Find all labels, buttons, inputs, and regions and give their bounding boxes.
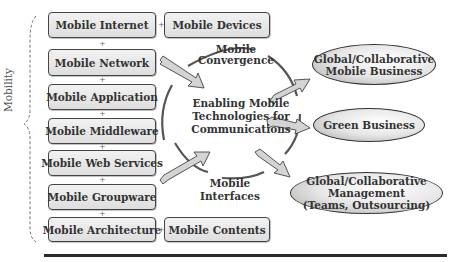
label-line: Mobile bbox=[200, 177, 260, 190]
box-mobile-network: Mobile Network bbox=[48, 49, 156, 76]
box-label: Mobile Devices bbox=[172, 19, 261, 31]
mobile-interfaces-label: Mobile Interfaces bbox=[200, 177, 260, 203]
enabling-technologies-label: Enabling Mobile Technologies for Communi… bbox=[186, 97, 296, 136]
mobility-bracket bbox=[24, 16, 36, 242]
label-line: Enabling Mobile bbox=[186, 97, 296, 110]
label-line: Interfaces bbox=[200, 190, 260, 203]
box-mobile-devices: Mobile Devices bbox=[164, 12, 270, 38]
box-mobile-web-services: Mobile Web Services bbox=[48, 150, 156, 176]
outcome-green-business: Green Business bbox=[313, 108, 425, 142]
ellipse-line: Global/Collaborative bbox=[314, 53, 434, 65]
box-label: Mobile Contents bbox=[168, 224, 265, 236]
box-label: Mobile Application bbox=[46, 91, 158, 103]
ellipse-line: Management bbox=[303, 187, 430, 199]
box-label: Mobile Architecture bbox=[43, 224, 162, 236]
plus-connector: + bbox=[158, 21, 165, 29]
plus-connector: + bbox=[99, 210, 106, 218]
label-line: Convergence bbox=[196, 54, 276, 67]
box-mobile-architecture: Mobile Architecture bbox=[48, 217, 156, 242]
ellipse-line: (Teams, Outsourcing) bbox=[303, 199, 430, 211]
box-mobile-internet: Mobile Internet bbox=[48, 12, 156, 38]
plus-connector: + bbox=[99, 176, 106, 184]
box-label: Mobile Middleware bbox=[45, 125, 158, 137]
box-label: Mobile Web Services bbox=[41, 157, 163, 169]
plus-connector: + bbox=[99, 143, 106, 151]
ellipse-line: Global/Collaborative bbox=[303, 175, 430, 187]
plus-connector: + bbox=[99, 110, 106, 118]
bottom-rule bbox=[44, 254, 447, 257]
plus-connector: + bbox=[158, 226, 165, 234]
outcome-global-management: Global/Collaborative Management (Teams, … bbox=[290, 172, 443, 214]
box-mobile-middleware: Mobile Middleware bbox=[48, 118, 156, 144]
box-mobile-groupware: Mobile Groupware bbox=[48, 184, 156, 210]
plus-connector: + bbox=[99, 76, 106, 84]
box-mobile-application: Mobile Application bbox=[48, 84, 156, 110]
ellipse-line: Mobile Business bbox=[314, 65, 434, 77]
ellipse-line: Green Business bbox=[323, 119, 415, 131]
arc-left bbox=[162, 85, 172, 140]
box-label: Mobile Groupware bbox=[48, 191, 157, 203]
box-label: Mobile Network bbox=[55, 57, 149, 69]
box-label: Mobile Internet bbox=[55, 19, 148, 31]
mobile-convergence-label: Mobile Convergence bbox=[196, 43, 276, 67]
plus-connector: + bbox=[99, 40, 106, 48]
box-mobile-contents: Mobile Contents bbox=[164, 217, 270, 242]
label-line: Technologies for bbox=[186, 110, 296, 123]
outcome-global-mobile-business: Global/Collaborative Mobile Business bbox=[312, 44, 436, 85]
label-line: Communications bbox=[186, 123, 296, 136]
